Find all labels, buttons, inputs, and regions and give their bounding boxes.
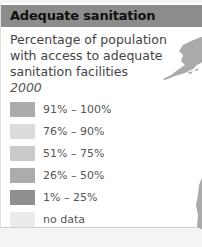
legend-label: 1% – 25% [43, 191, 97, 204]
legend-label: 26% – 50% [43, 169, 104, 182]
legend-panel: Adequate sanitation Percentage of popula… [0, 3, 202, 228]
legend-year: 2000 [10, 80, 42, 95]
alaska-map-shape [161, 33, 202, 93]
legend-swatch [10, 168, 35, 183]
land-map-shape [196, 175, 202, 230]
legend-swatch [10, 102, 35, 117]
legend-title: Adequate sanitation [10, 8, 155, 23]
legend-label: 91% – 100% [43, 103, 111, 116]
legend-swatch [10, 124, 35, 139]
legend-swatch [10, 212, 35, 227]
legend-swatch [10, 146, 35, 161]
legend-swatch [10, 190, 35, 205]
legend-label: 51% – 75% [43, 147, 104, 160]
legend-label: no data [43, 213, 85, 226]
legend-label: 76% – 90% [43, 125, 104, 138]
legend-header: Adequate sanitation [1, 5, 202, 27]
